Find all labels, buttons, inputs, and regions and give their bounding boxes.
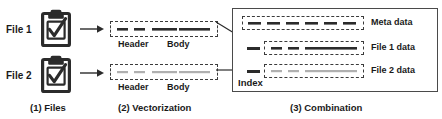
file-2-label: File 2 xyxy=(6,71,32,81)
file-1-label: File 1 xyxy=(6,25,32,35)
vector-row-file1 xyxy=(110,21,218,37)
arrow-file2-to-vector2 xyxy=(80,68,106,78)
meta-data-label: Meta data xyxy=(371,18,413,27)
vector2-body-label: Body xyxy=(167,83,190,92)
file2-data-label: File 2 data xyxy=(371,66,415,75)
vector1-header-label: Header xyxy=(118,40,149,49)
caption-vectorization: (2) Vectorization xyxy=(118,102,191,113)
vector1-body-label: Body xyxy=(167,40,190,49)
caption-files: (1) Files xyxy=(30,102,66,113)
caption-combination: (3) Combination xyxy=(290,102,362,113)
file2-index-stub xyxy=(247,70,260,73)
vector2-header-label: Header xyxy=(118,83,149,92)
combination-row-meta xyxy=(242,16,364,30)
clipboard-checklist-icon xyxy=(41,9,71,47)
file1-data-label: File 1 data xyxy=(371,43,415,52)
combination-row-file1 xyxy=(264,41,364,55)
arrow-file1-to-vector1 xyxy=(80,24,106,34)
index-label: Index xyxy=(238,78,263,88)
diagram-canvas: File 1 File 2 xyxy=(0,0,442,119)
combination-row-file2 xyxy=(264,64,364,78)
vector-row-file2 xyxy=(110,64,218,80)
clipboard-checklist-icon xyxy=(41,55,71,93)
file1-index-stub xyxy=(247,47,260,50)
